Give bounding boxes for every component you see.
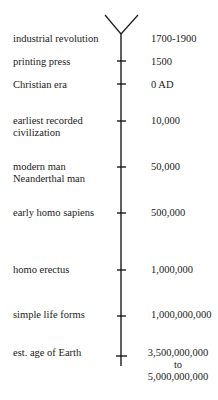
event-label-early-homo-sapiens: early homo sapiens [13,207,94,219]
event-value-printing-press: 1500 [151,56,172,68]
event-value-early-homo-sapiens: 500,000 [151,207,185,219]
event-label-christian-era: Christian era [13,79,67,91]
event-value-christian-era: 0 AD [151,79,173,91]
value-line: 1,000,000,000 [151,309,211,321]
event-value-age-of-earth: 3,500,000,000 to 5,000,000,000 [147,347,209,383]
value-line: 500,000 [151,207,185,219]
value-line: to [147,359,209,371]
label-line: est. age of Earth [13,347,81,359]
value-line: 50,000 [151,161,180,173]
value-line: 1700-1900 [151,33,197,45]
value-line: 10,000 [151,115,180,127]
value-line: 5,000,000,000 [147,371,209,383]
label-line: printing press [13,56,70,68]
value-line: 3,500,000,000 [147,347,209,359]
label-line: modern man [13,161,85,173]
event-value-simple-life-forms: 1,000,000,000 [151,309,211,321]
event-label-earliest-civilization: earliest recorded civilization [13,115,83,139]
label-line: earliest recorded [13,115,83,127]
event-label-printing-press: printing press [13,56,70,68]
label-line: Christian era [13,79,67,91]
value-line: 1,000,000 [151,264,193,276]
event-value-industrial-revolution: 1700-1900 [151,33,197,45]
value-line: 0 AD [151,79,173,91]
axis-fork-right [121,15,138,34]
timeline-diagram: industrial revolution printing press Chr… [0,0,218,400]
event-label-homo-erectus: homo erectus [13,264,69,276]
label-line: homo erectus [13,264,69,276]
event-label-modern-man: modern man Neanderthal man [13,161,85,185]
event-label-simple-life-forms: simple life forms [13,309,85,321]
label-line: early homo sapiens [13,207,94,219]
axis-fork-left [105,15,121,34]
label-line: civilization [13,127,83,139]
event-value-earliest-civilization: 10,000 [151,115,180,127]
value-line: 1500 [151,56,172,68]
event-label-age-of-earth: est. age of Earth [13,347,81,359]
label-line: industrial revolution [13,33,98,45]
label-line: Neanderthal man [13,173,85,185]
event-label-industrial-revolution: industrial revolution [13,33,98,45]
event-value-modern-man: 50,000 [151,161,180,173]
label-line: simple life forms [13,309,85,321]
event-value-homo-erectus: 1,000,000 [151,264,193,276]
